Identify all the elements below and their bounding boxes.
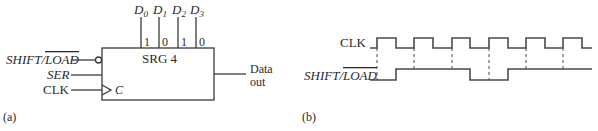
parallel-input-d3: D3 0 [189, 2, 205, 49]
caption-b: (b) [302, 110, 316, 124]
parallel-input-d1: D1 0 [152, 2, 168, 49]
timing-diagram: CLK SHIFT/LOAD (b) [302, 35, 592, 124]
ser-input: SER [47, 67, 102, 82]
d3-value: 0 [199, 35, 205, 49]
shift-load-waveform [370, 69, 592, 80]
clk-label: CLK [43, 82, 70, 97]
shift-load-label: SHIFT/LOAD [6, 52, 80, 67]
clk-input: CLK C [43, 82, 124, 97]
block-title: SRG 4 [142, 51, 178, 66]
d2-value: 1 [181, 35, 187, 49]
d0-value: 1 [144, 35, 150, 49]
clk-waveform [370, 38, 592, 48]
data-out-label-line2: out [250, 75, 266, 89]
data-output: Data out [214, 62, 273, 89]
clock-triangle-icon [102, 85, 111, 95]
parallel-input-d2: D2 1 [171, 2, 187, 49]
diagram-canvas: SRG 4 D0 1 D1 0 D2 1 D3 0 SHIFT/LOAD [0, 0, 598, 131]
d1-value: 0 [162, 35, 168, 49]
svg-text:D2: D2 [171, 2, 186, 19]
clock-pin-label: C [115, 83, 124, 97]
inversion-bubble-icon [96, 57, 102, 63]
shift-load-input: SHIFT/LOAD [6, 52, 102, 67]
svg-text:D0: D0 [133, 2, 148, 19]
data-out-label-line1: Data [250, 62, 273, 76]
ser-label: SER [47, 67, 69, 82]
shift-load-waveform-label: SHIFT/LOAD [304, 68, 378, 83]
srg4-block-diagram: SRG 4 D0 1 D1 0 D2 1 D3 0 SHIFT/LOAD [3, 2, 273, 124]
clk-waveform-label: CLK [340, 35, 367, 50]
parallel-input-d0: D0 1 [133, 2, 150, 49]
svg-text:D3: D3 [189, 2, 204, 19]
svg-text:D1: D1 [152, 2, 167, 19]
caption-a: (a) [3, 110, 16, 124]
